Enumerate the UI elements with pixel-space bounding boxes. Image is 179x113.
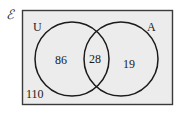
region-intersection-value: 28 xyxy=(89,52,101,66)
set-a-label: A xyxy=(147,20,156,34)
universal-set-symbol: ℰ xyxy=(6,7,15,22)
region-only-u-value: 86 xyxy=(55,53,67,67)
region-outside-value: 110 xyxy=(26,87,44,101)
region-only-a-value: 19 xyxy=(123,57,135,71)
venn-diagram: ℰ U A 86 28 19 110 xyxy=(0,0,179,113)
set-u-label: U xyxy=(33,20,42,34)
